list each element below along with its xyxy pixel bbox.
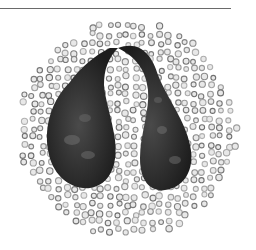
illustration: [0, 0, 256, 250]
